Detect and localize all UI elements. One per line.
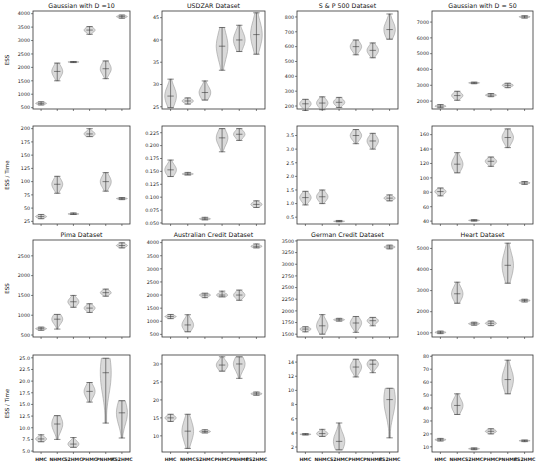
- x-tick-label: NHMC: [180, 457, 196, 462]
- y-tick-label: 2000: [282, 309, 294, 314]
- y-tick-label: 600: [285, 44, 294, 49]
- y-tick-label: 125: [21, 166, 30, 171]
- y-tick-label: 35: [153, 60, 159, 65]
- y-tick-label: 10: [288, 388, 294, 393]
- x-tick-label: HMC: [35, 457, 47, 462]
- y-tick-label: 15: [153, 416, 159, 421]
- y-tick-label: 0.100: [145, 195, 159, 200]
- y-tick-label: 2500: [18, 254, 30, 259]
- violin-plot-grid: Gaussian with D =10ESS500100015002000250…: [0, 0, 537, 468]
- y-tick-label: 0.050: [145, 221, 159, 226]
- y-tick-label: 4000: [18, 11, 30, 16]
- y-tick-label: 3000: [147, 267, 159, 272]
- y-tick-label: 120: [420, 161, 429, 166]
- y-tick-label: 1.5: [286, 188, 294, 193]
- subplot-13: ESS / Time5.07.510.012.515.017.520.022.5…: [4, 355, 133, 462]
- y-tick-label: 0.225: [145, 131, 159, 136]
- axes-frame: [432, 126, 533, 224]
- x-tick-label: PS2HMC: [246, 457, 268, 462]
- x-tick-label: S2HMC: [465, 457, 484, 462]
- y-tick-label: 0.125: [145, 182, 159, 187]
- subplot-12: Heart Dataset10002000300040005000: [417, 231, 533, 339]
- subplot-4: Gaussian with D = 5020003000400050006000…: [417, 2, 533, 111]
- y-tick-label: 2000: [18, 65, 30, 70]
- y-tick-label: 50: [24, 206, 30, 211]
- y-tick-label: 30: [423, 419, 429, 424]
- axes-frame: [162, 355, 265, 452]
- y-tick-label: 17.5: [19, 391, 30, 396]
- y-tick-label: 1500: [282, 332, 294, 337]
- y-tick-label: 5000: [417, 51, 429, 56]
- axes-frame: [297, 11, 398, 109]
- y-tick-label: 40: [153, 38, 159, 43]
- axes-frame: [162, 240, 265, 337]
- x-tick-label: PS2HMC: [379, 457, 401, 462]
- axes-frame: [33, 240, 130, 337]
- axes-frame: [432, 355, 533, 452]
- y-tick-label: 1500: [18, 79, 30, 84]
- y-tick-label: 5.0: [22, 449, 30, 454]
- y-tick-label: 22.5: [19, 367, 30, 372]
- y-tick-label: 15.0: [19, 402, 30, 407]
- x-tick-label: PHMC: [215, 457, 231, 462]
- y-tick-label: 3.0: [286, 147, 294, 152]
- y-tick-label: 160: [420, 132, 429, 137]
- y-tick-label: 1.0: [286, 201, 294, 206]
- y-tick-label: 30: [153, 362, 159, 367]
- y-tick-label: 0.5: [286, 215, 294, 220]
- y-tick-label: 3.5: [286, 133, 294, 138]
- y-tick-label: 150: [21, 153, 30, 158]
- x-tick-label: HMC: [165, 457, 177, 462]
- y-tick-label: 2.5: [286, 161, 294, 166]
- subplot-title: USDZAR Dataset: [187, 2, 241, 9]
- y-tick-label: 40: [423, 406, 429, 411]
- y-tick-label: 3250: [282, 250, 294, 255]
- y-tick-label: 30: [153, 82, 159, 87]
- y-tick-label: 2: [291, 445, 294, 450]
- subplot-2: USDZAR Dataset2530354045: [153, 2, 265, 111]
- y-tick-label: 1500: [18, 293, 30, 298]
- x-tick-label: PHMC: [348, 457, 364, 462]
- subplot-title: Heart Dataset: [460, 231, 505, 238]
- x-tick-label: NHMC: [314, 457, 330, 462]
- y-tick-label: 20.0: [19, 379, 30, 384]
- axes-frame: [432, 240, 533, 337]
- y-tick-label: 100: [21, 179, 30, 184]
- y-tick-label: 3000: [417, 288, 429, 293]
- subplot-title: Pima Dataset: [60, 231, 103, 238]
- y-tick-label: 50: [423, 393, 429, 398]
- y-tick-label: 3500: [282, 239, 294, 244]
- y-tick-label: 500: [21, 333, 30, 338]
- subplot-title: Gaussian with D =10: [48, 2, 114, 9]
- x-tick-label: S2HMC: [330, 457, 349, 462]
- subplot-16: 1020304050607080HMCNHMCS2HMCPHMCPNHMCPS2…: [423, 354, 536, 462]
- y-tick-label: 12.5: [19, 414, 30, 419]
- y-tick-label: 6000: [417, 36, 429, 41]
- y-tick-label: 7000: [417, 20, 429, 25]
- axes-frame: [162, 11, 265, 109]
- y-tick-label: 75: [24, 193, 30, 198]
- y-tick-label: 2500: [147, 280, 159, 285]
- y-tick-label: 0.200: [145, 143, 159, 148]
- y-tick-label: 175: [21, 140, 30, 145]
- y-tick-label: 200: [285, 104, 294, 109]
- y-tick-label: 500: [150, 332, 159, 337]
- axes-frame: [33, 355, 130, 452]
- x-tick-label: PS2HMC: [111, 457, 133, 462]
- y-tick-label: 80: [423, 190, 429, 195]
- y-tick-label: 3500: [147, 254, 159, 259]
- y-tick-label: 4000: [417, 267, 429, 272]
- y-tick-label: 25.0: [19, 356, 30, 361]
- axes-frame: [162, 126, 265, 224]
- y-tick-label: 25: [24, 219, 30, 224]
- y-tick-label: 300: [285, 89, 294, 94]
- subplot-7: 0.51.01.52.02.53.03.5: [286, 126, 398, 226]
- y-tick-label: 0.175: [145, 156, 159, 161]
- y-tick-label: 25: [153, 105, 159, 110]
- y-tick-label: 0.150: [145, 169, 159, 174]
- y-tick-label: 2250: [282, 297, 294, 302]
- subplot-9: Pima DatasetESS5001000150020002500: [4, 231, 130, 339]
- y-tick-label: 80: [423, 354, 429, 359]
- x-tick-label: PS2HMC: [514, 457, 536, 462]
- y-tick-label: 10: [153, 434, 159, 439]
